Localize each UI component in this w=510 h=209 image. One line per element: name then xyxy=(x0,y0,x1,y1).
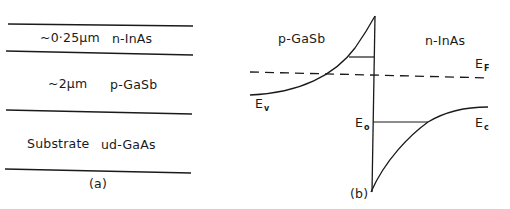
layer-boundary-bottom xyxy=(5,169,191,173)
layer-boundary-gasb-substrate xyxy=(6,110,192,114)
layer-boundary-top xyxy=(8,24,193,26)
label-ec: Ec xyxy=(475,117,489,130)
region-label-inas: n-InAs xyxy=(425,35,465,48)
fermi-level-line xyxy=(250,72,490,78)
panel-b-caption: (b) xyxy=(350,188,368,201)
label-ev-main: E xyxy=(255,96,263,111)
panel-a-caption: (a) xyxy=(89,178,107,191)
label-e0: Eo xyxy=(355,117,370,130)
label-ec-main: E xyxy=(475,115,483,130)
layer-material-gasb: p-GaSb xyxy=(110,79,157,92)
label-ev-sub: v xyxy=(264,104,269,113)
label-ev: Ev xyxy=(255,98,270,111)
label-ef: EF xyxy=(475,58,490,71)
label-ef-main: E xyxy=(475,56,483,71)
layer-boundary-inas-gasb xyxy=(6,51,193,55)
layer-label-substrate: Substrate xyxy=(27,138,89,151)
region-label-gasb: p-GaSb xyxy=(278,33,325,46)
layer-thickness-gasb: ~2µm xyxy=(48,78,87,91)
layer-thickness-inas: ~0·25µm xyxy=(40,32,100,45)
label-e0-main: E xyxy=(355,115,363,130)
conduction-band-curve xyxy=(371,107,488,192)
interface-line xyxy=(372,16,375,192)
layer-material-inas: n-InAs xyxy=(112,33,152,46)
label-ef-sub: F xyxy=(484,64,490,73)
label-e0-sub: o xyxy=(364,123,370,132)
label-ec-sub: c xyxy=(484,123,489,132)
valence-band-curve xyxy=(250,16,375,95)
layer-material-substrate: ud-GaAs xyxy=(101,139,156,152)
